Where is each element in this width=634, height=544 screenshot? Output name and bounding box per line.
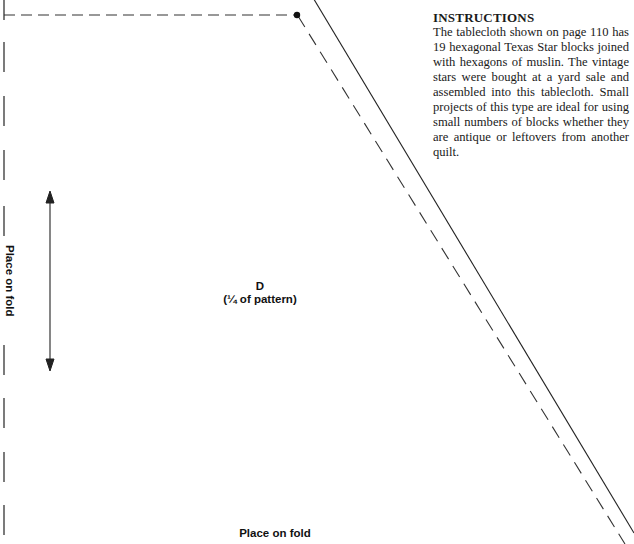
piece-note: (¼ of pattern) (180, 293, 340, 306)
instructions-heading: INSTRUCTIONS (433, 10, 629, 25)
fold-label-bottom: Place on fold (200, 527, 350, 539)
grainline-arrow-icon (46, 191, 54, 371)
corner-dot-icon (294, 12, 300, 18)
piece-label: D (¼ of pattern) (180, 280, 340, 306)
instructions-panel: INSTRUCTIONS The tablecloth shown on pag… (433, 10, 629, 160)
fold-label-side: Place on fold (4, 245, 16, 335)
piece-letter: D (180, 280, 340, 293)
instructions-body: The tablecloth shown on page 110 has 19 … (433, 25, 629, 160)
